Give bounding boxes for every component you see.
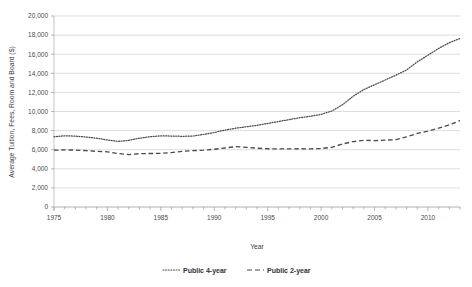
y-tick-label-20000: 20,000 bbox=[28, 12, 48, 19]
y-tick-label-10000: 10,000 bbox=[28, 108, 48, 115]
y-tick-label-14000: 14,000 bbox=[28, 70, 48, 77]
axes-group bbox=[54, 16, 460, 210]
y-tick-label-6000: 6,000 bbox=[32, 146, 49, 153]
x-axis-tick-labels: 19751980198519901995200020052010 bbox=[47, 214, 436, 221]
x-tick-label-2000: 2000 bbox=[314, 214, 329, 221]
legend-item-public-2-year: Public 2-year bbox=[247, 267, 311, 275]
legend-item-public-4-year: Public 4-year bbox=[163, 267, 227, 275]
data-series-group bbox=[54, 38, 460, 154]
y-tick-label-8000: 8,000 bbox=[32, 127, 49, 134]
y-tick-label-12000: 12,000 bbox=[28, 89, 48, 96]
x-tick-label-1985: 1985 bbox=[154, 214, 169, 221]
y-tick-label-0: 0 bbox=[44, 203, 48, 210]
x-axis-title: Year bbox=[250, 243, 264, 250]
y-axis-tick-labels: 02,0004,0006,0008,00010,00012,00014,0001… bbox=[28, 12, 48, 210]
legend-label-public-4-year: Public 4-year bbox=[183, 267, 227, 275]
x-tick-label-2005: 2005 bbox=[367, 214, 382, 221]
x-tick-label-1990: 1990 bbox=[207, 214, 222, 221]
chart-container: 02,0004,0006,0008,00010,00012,00014,0001… bbox=[0, 0, 472, 287]
gridlines-group bbox=[54, 16, 460, 207]
x-tick-label-1975: 1975 bbox=[47, 214, 62, 221]
y-tick-label-2000: 2,000 bbox=[32, 184, 49, 191]
y-tick-label-18000: 18,000 bbox=[28, 31, 48, 38]
tick-marks-group bbox=[51, 16, 460, 211]
y-axis-title: Average Tuition, Fees, Room and Board ($… bbox=[8, 46, 16, 177]
x-tick-label-2010: 2010 bbox=[421, 214, 436, 221]
x-tick-label-1995: 1995 bbox=[260, 214, 275, 221]
line-chart-svg: 02,0004,0006,0008,00010,00012,00014,0001… bbox=[0, 0, 472, 287]
y-tick-label-4000: 4,000 bbox=[32, 165, 49, 172]
y-tick-label-16000: 16,000 bbox=[28, 51, 48, 58]
chart-legend: Public 4-year Public 2-year bbox=[163, 267, 311, 275]
x-tick-label-1980: 1980 bbox=[100, 214, 115, 221]
legend-label-public-2-year: Public 2-year bbox=[267, 267, 311, 275]
